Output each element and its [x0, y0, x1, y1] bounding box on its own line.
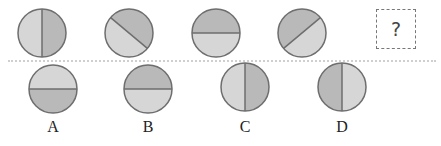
- option-figure-d[interactable]: [318, 63, 366, 111]
- sequence-figure-1: [18, 9, 66, 57]
- shaded-half: [245, 63, 269, 111]
- shaded-half: [124, 65, 172, 89]
- shaded-half: [42, 9, 66, 57]
- sequence-figure-4: [278, 9, 326, 57]
- sequence-figure-2: [105, 9, 153, 57]
- option-figure-a[interactable]: [29, 65, 77, 113]
- sequence-figure-3: [192, 9, 240, 57]
- option-label-a[interactable]: A: [38, 118, 68, 136]
- puzzle-diagram: ? A B C D: [0, 0, 441, 146]
- option-label-c[interactable]: C: [230, 118, 260, 136]
- question-mark: ?: [391, 18, 401, 40]
- dotted-divider: [8, 60, 436, 62]
- shaded-half: [318, 63, 342, 111]
- option-label-d[interactable]: D: [327, 118, 357, 136]
- answer-placeholder-box: ?: [376, 9, 416, 49]
- option-label-b[interactable]: B: [133, 118, 163, 136]
- shaded-half: [29, 89, 77, 113]
- option-figure-c[interactable]: [221, 63, 269, 111]
- option-figure-b[interactable]: [124, 65, 172, 113]
- shaded-half: [192, 9, 240, 33]
